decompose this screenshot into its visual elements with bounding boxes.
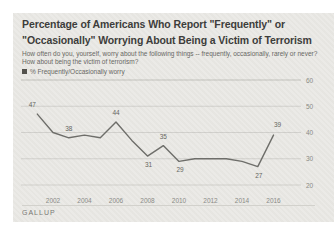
x-tick-label: 2012 [203, 197, 218, 204]
y-tick-label: 60 [306, 77, 314, 84]
y-tick-label: 30 [306, 155, 314, 162]
x-tick-label: 2016 [266, 197, 281, 204]
point-label: 44 [112, 109, 120, 116]
point-label: 31 [145, 161, 153, 168]
x-tick-label: 2004 [77, 197, 92, 204]
point-label: 47 [29, 101, 37, 108]
x-tick-label: 2002 [46, 197, 61, 204]
y-tick-label: 50 [306, 103, 314, 110]
x-tick-label: 2006 [109, 197, 124, 204]
x-tick-label: 2014 [235, 197, 250, 204]
gallup-chart-card: Percentage of Americans Who Report "Freq… [13, 13, 334, 222]
footer-divider [22, 205, 315, 206]
x-tick-label: 2010 [172, 197, 187, 204]
point-label: 29 [176, 166, 184, 173]
point-label: 39 [274, 121, 282, 128]
point-label: 27 [255, 172, 263, 179]
source-label: GALLUP [22, 209, 56, 216]
y-tick-label: 20 [306, 182, 314, 189]
point-label: 38 [65, 125, 73, 132]
y-tick-label: 40 [306, 129, 314, 136]
point-label: 35 [160, 133, 168, 140]
terrorism-worry-line-chart: 6050403020200220042006200820102012201420… [13, 13, 334, 222]
x-tick-label: 2008 [140, 197, 155, 204]
